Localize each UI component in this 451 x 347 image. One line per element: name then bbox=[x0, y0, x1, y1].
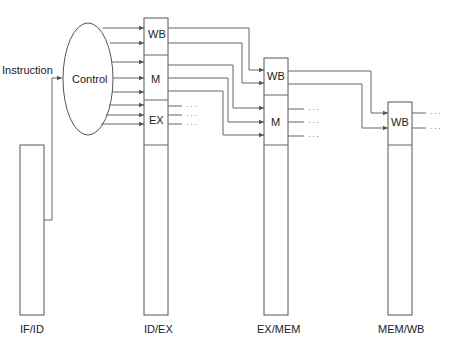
instruction-label: Instruction bbox=[2, 64, 53, 76]
id-ex-field-wb: WB bbox=[148, 28, 166, 40]
instruction-line bbox=[44, 78, 62, 220]
mem-wb-field-wb: WB bbox=[391, 116, 409, 128]
id-ex-field-m: M bbox=[151, 73, 160, 85]
ex-mem-field-wb: WB bbox=[267, 70, 285, 82]
ellipsis: ··· bbox=[308, 117, 320, 127]
m-signal-route bbox=[168, 78, 264, 122]
ex-mem-field-m: M bbox=[271, 116, 280, 128]
mem-wb-register bbox=[388, 102, 412, 315]
wb-signal-route bbox=[288, 71, 388, 113]
ellipsis: ··· bbox=[308, 104, 320, 114]
control-label: Control bbox=[72, 73, 107, 85]
ellipsis: ··· bbox=[186, 119, 198, 129]
if-id-label: IF/ID bbox=[20, 323, 44, 335]
m-signal-route bbox=[168, 65, 264, 108]
ex-mem-register bbox=[264, 58, 288, 315]
if-id-register bbox=[20, 145, 44, 315]
m-signal-route bbox=[168, 91, 264, 135]
mem-wb-label: MEM/WB bbox=[378, 323, 424, 335]
ellipsis: ··· bbox=[430, 108, 442, 118]
ex-mem-label: EX/MEM bbox=[257, 323, 300, 335]
id-ex-register bbox=[144, 18, 168, 315]
wb-signal-route bbox=[288, 84, 388, 128]
id-ex-label: ID/EX bbox=[144, 323, 173, 335]
pipeline-control-diagram: IF/ID Instruction Control WB M EX ID/EX … bbox=[0, 0, 451, 347]
ellipsis: ··· bbox=[308, 131, 320, 141]
wb-signal-route bbox=[168, 43, 264, 83]
id-ex-field-ex: EX bbox=[149, 114, 164, 126]
ellipsis: ··· bbox=[430, 123, 442, 133]
wb-signal-route bbox=[168, 28, 264, 70]
